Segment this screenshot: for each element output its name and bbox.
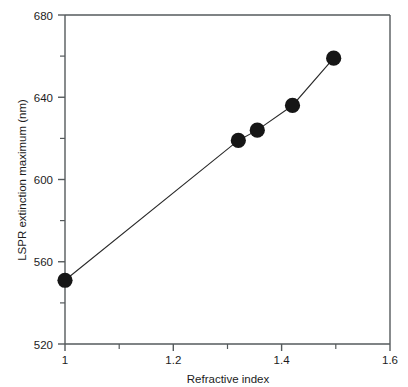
- x-axis-title: Refractive index: [187, 373, 270, 385]
- data-point: [231, 133, 246, 148]
- x-tick-label-1: 1: [62, 354, 68, 366]
- y-tick-label-560: 560: [34, 256, 53, 268]
- x-tick-label-1-6: 1.6: [382, 354, 398, 366]
- data-point: [285, 98, 300, 113]
- y-tick-label-640: 640: [34, 92, 53, 104]
- plot-background: [0, 0, 408, 387]
- data-point: [250, 123, 265, 138]
- x-tick-label-1-2: 1.2: [165, 354, 181, 366]
- y-axis-title: LSPR extinction maximum (nm): [16, 99, 28, 261]
- y-tick-label-680: 680: [34, 10, 53, 22]
- data-point: [57, 273, 72, 288]
- y-tick-label-520: 520: [34, 339, 53, 351]
- data-point: [326, 51, 341, 66]
- x-tick-label-1-4: 1.4: [274, 354, 291, 366]
- chart-figure: 680 640 600 560 520 1 1.2 1.4 1.6 Refrac…: [0, 0, 408, 387]
- y-tick-label-600: 600: [34, 174, 53, 186]
- scatter-plot: 680 640 600 560 520 1 1.2 1.4 1.6 Refrac…: [0, 0, 408, 387]
